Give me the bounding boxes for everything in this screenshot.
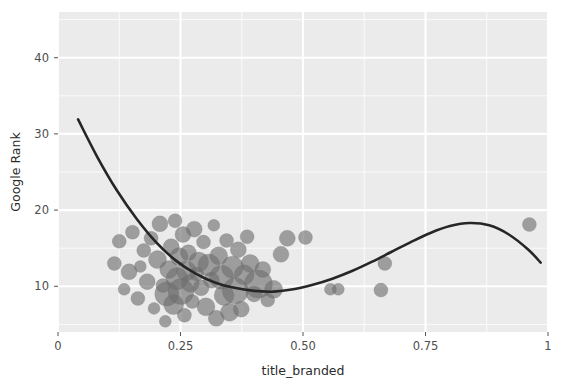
chart-container: 00.250.500.751 10203040 title_branded Go… <box>0 0 565 384</box>
data-point-bubble <box>168 214 182 228</box>
data-point-bubble <box>374 283 388 297</box>
data-point-bubble <box>230 242 246 258</box>
y-tick-label: 20 <box>34 203 49 217</box>
data-point-bubble <box>240 230 254 244</box>
y-tick-label: 10 <box>34 279 49 293</box>
data-point-bubble <box>131 291 145 305</box>
x-axis-title: title_branded <box>262 363 345 378</box>
x-tick-label: 1 <box>544 339 551 353</box>
data-point-bubble <box>148 302 160 314</box>
data-point-bubble <box>265 280 283 298</box>
data-point-bubble <box>522 218 536 232</box>
data-point-bubble <box>279 230 295 246</box>
data-point-bubble <box>112 234 126 248</box>
data-point-bubble <box>332 283 344 295</box>
scatter-plot: 00.250.500.751 10203040 title_branded Go… <box>0 0 565 384</box>
x-tick-label: 0.50 <box>290 339 316 353</box>
x-tick-label: 0 <box>54 339 61 353</box>
data-point-bubble <box>107 256 121 270</box>
y-axis-title: Google Rank <box>8 132 23 212</box>
data-point-bubble <box>137 243 151 257</box>
y-tick-label: 30 <box>34 127 49 141</box>
data-point-bubble <box>255 262 271 278</box>
data-point-bubble <box>208 219 220 231</box>
data-point-bubble <box>233 301 249 317</box>
data-point-bubble <box>134 260 146 272</box>
data-point-bubble <box>125 225 139 239</box>
data-point-bubble <box>177 308 191 322</box>
data-point-bubble <box>186 221 202 237</box>
y-tick-label: 40 <box>34 51 49 65</box>
data-point-bubble <box>118 283 130 295</box>
data-point-bubble <box>159 315 171 327</box>
x-tick-label: 0.25 <box>168 339 194 353</box>
data-point-bubble <box>298 231 312 245</box>
data-point-bubble <box>152 216 168 232</box>
x-tick-label: 0.75 <box>413 339 439 353</box>
data-point-bubble <box>273 246 289 262</box>
data-point-bubble <box>197 235 211 249</box>
data-point-bubble <box>139 274 155 290</box>
